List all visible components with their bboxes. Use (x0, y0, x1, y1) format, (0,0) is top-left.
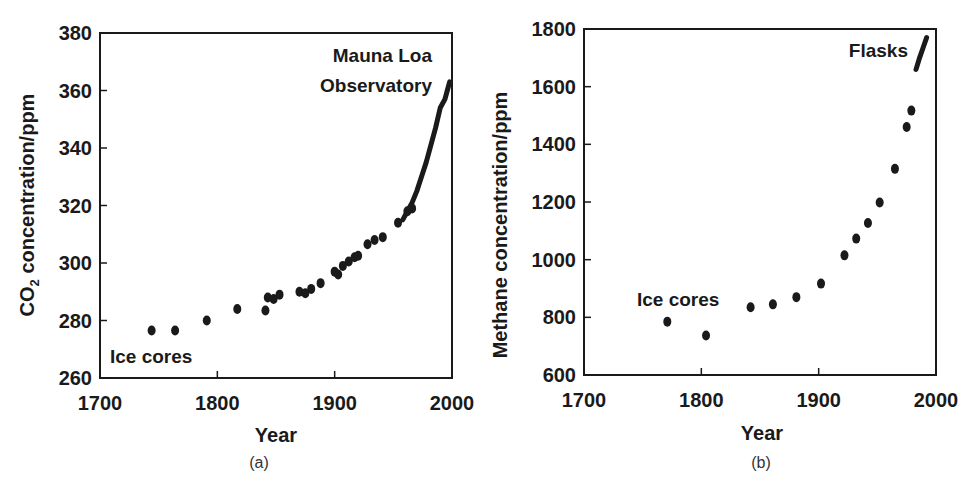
y-tick-label: 600 (543, 364, 576, 386)
data-point (276, 290, 284, 300)
x-tick-label: 2000 (914, 389, 959, 411)
data-point (769, 299, 777, 309)
data-point (792, 292, 800, 302)
series-line (403, 82, 450, 220)
annotation-ice-cores: Ice cores (637, 289, 719, 310)
y-tick-label: 1000 (532, 249, 577, 271)
y-tick-label: 380 (59, 22, 92, 44)
data-point (840, 250, 848, 260)
y-tick-label: 260 (59, 367, 92, 389)
chart-a: 1700180019002000260280300320340360380 CO… (0, 0, 485, 485)
data-point (852, 234, 860, 244)
data-point (171, 326, 179, 336)
data-point (233, 304, 241, 314)
y-tick-label: 1400 (532, 133, 577, 155)
annotation-ice-cores: Ice cores (110, 346, 192, 367)
y-tick-label: 320 (59, 195, 92, 217)
data-point (663, 317, 671, 327)
data-point (864, 218, 872, 228)
y-tick-label: 300 (59, 252, 92, 274)
data-point (261, 305, 269, 315)
data-point (317, 278, 325, 288)
annotation-flasks: Flasks (849, 40, 908, 61)
y-tick-label: 1600 (532, 76, 577, 98)
y-tick-label: 800 (543, 306, 576, 328)
data-point (203, 316, 211, 326)
data-point (334, 270, 342, 280)
annotation-observatory: Observatory (320, 75, 432, 96)
x-tick-label: 1800 (195, 392, 240, 414)
co2-scatter-plot: 1700180019002000260280300320340360380 CO… (0, 0, 485, 485)
y-axis-label-co2: CO2 concentration/ppm (16, 94, 42, 317)
caption-b: (b) (751, 454, 771, 471)
data-point (307, 284, 315, 294)
y-tick-label: 340 (59, 137, 92, 159)
y-tick-label: 280 (59, 310, 92, 332)
data-point (903, 122, 911, 132)
data-point (702, 330, 710, 340)
data-point (379, 232, 387, 242)
chart-b: 1700180019002000600800100012001400160018… (485, 0, 975, 485)
series-line (916, 38, 927, 70)
data-point (371, 235, 379, 245)
data-point (354, 251, 362, 261)
x-tick-label: 1800 (679, 389, 724, 411)
x-tick-label: 1700 (562, 389, 607, 411)
y-tick-label: 1200 (532, 191, 577, 213)
x-tick-label: 1900 (312, 392, 357, 414)
x-tick-label: 2000 (430, 392, 475, 414)
data-point (876, 198, 884, 208)
x-axis-label: Year (741, 422, 783, 444)
x-tick-label: 1900 (796, 389, 841, 411)
annotation-mauna-loa: Mauna Loa (333, 45, 433, 66)
data-point (817, 279, 825, 289)
caption-a: (a) (249, 454, 269, 471)
data-point (364, 239, 372, 249)
y-tick-label: 360 (59, 80, 92, 102)
data-point (148, 326, 156, 336)
y-tick-label: 1800 (532, 18, 577, 40)
methane-scatter-plot: 1700180019002000600800100012001400160018… (485, 0, 975, 485)
x-axis-label: Year (255, 424, 297, 446)
data-point (891, 164, 899, 174)
data-point (747, 302, 755, 312)
x-tick-label: 1700 (78, 392, 123, 414)
y-axis-label-methane: Methane concentration/ppm (489, 92, 511, 359)
data-point (907, 106, 915, 116)
